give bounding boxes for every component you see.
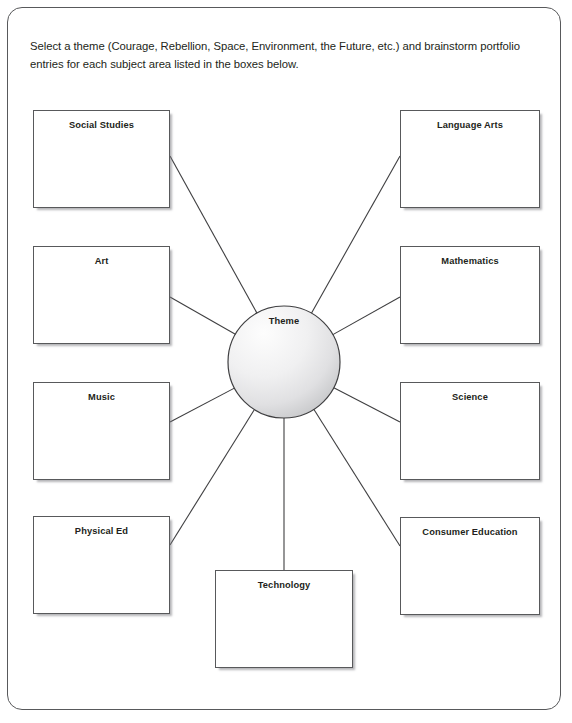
subject-box-social-studies[interactable]: Social Studies (33, 110, 170, 208)
subject-box-label: Mathematics (401, 256, 539, 266)
subject-box-art[interactable]: Art (33, 246, 170, 344)
connector-line-mathematics (332, 297, 400, 335)
subject-box-consumer-education[interactable]: Consumer Education (400, 517, 540, 615)
subject-box-label: Consumer Education (401, 527, 539, 537)
subject-box-label: Technology (216, 580, 352, 590)
subject-box-label: Science (401, 392, 539, 402)
connector-line-consumer-education (313, 409, 400, 546)
worksheet-page: Select a theme (Courage, Rebellion, Spac… (0, 0, 572, 723)
connector-line-art (170, 297, 236, 335)
subject-box-physical-ed[interactable]: Physical Ed (33, 516, 170, 614)
subject-box-label: Social Studies (34, 120, 169, 130)
subject-box-label: Language Arts (401, 120, 539, 130)
connector-line-physical-ed (170, 409, 255, 545)
subject-box-science[interactable]: Science (400, 382, 540, 480)
subject-box-label: Physical Ed (34, 526, 169, 536)
connector-line-language-arts (311, 156, 400, 314)
subject-box-label: Music (34, 392, 169, 402)
connector-line-science (333, 387, 400, 422)
connector-line-music (170, 388, 235, 422)
subject-box-label: Art (34, 256, 169, 266)
subject-box-language-arts[interactable]: Language Arts (400, 110, 540, 208)
subject-box-technology[interactable]: Technology (215, 570, 353, 668)
connector-line-social-studies (170, 156, 257, 314)
subject-box-mathematics[interactable]: Mathematics (400, 246, 540, 344)
theme-circle-label: Theme (229, 316, 339, 326)
subject-box-music[interactable]: Music (33, 382, 170, 480)
